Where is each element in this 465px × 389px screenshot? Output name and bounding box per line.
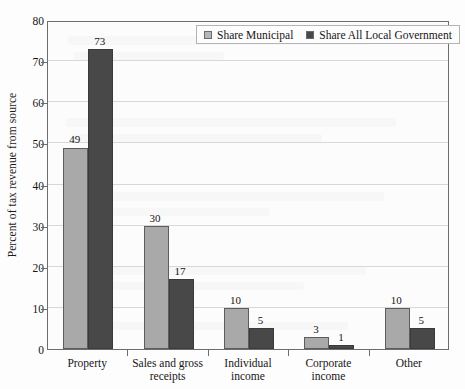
legend-label: Share All Local Government	[319, 29, 452, 41]
y-axis-title: Percent of tax revenue from source	[2, 0, 22, 350]
x-tick-mark	[288, 350, 289, 356]
legend-swatch-icon	[306, 31, 314, 39]
x-tick-mark	[208, 350, 209, 356]
plot-area	[47, 21, 449, 350]
bar-value-label: 10	[230, 294, 241, 306]
bar	[144, 226, 169, 349]
x-tick-mark	[369, 350, 370, 356]
y-tick-mark	[41, 144, 47, 145]
x-category-label: Sales and gross receipts	[132, 357, 203, 383]
y-tick-mark	[41, 103, 47, 104]
bar	[63, 148, 88, 350]
bar	[385, 308, 410, 349]
legend-entry: Share All Local Government	[306, 29, 452, 41]
bleed-smudge	[66, 118, 396, 127]
y-tick-label: 0	[18, 344, 44, 356]
bar-value-label: 5	[419, 314, 425, 326]
y-tick-mark	[41, 309, 47, 310]
bar-value-label: 17	[175, 265, 186, 277]
bar	[224, 308, 249, 349]
bar-value-label: 1	[338, 331, 344, 343]
bar	[88, 49, 113, 349]
x-category-label: Property	[67, 357, 107, 370]
y-tick-mark	[41, 268, 47, 269]
x-category-label: Corporate income	[305, 357, 351, 383]
y-tick-mark	[41, 186, 47, 187]
x-category-label: Individual income	[224, 357, 271, 383]
legend-entry: Share Municipal	[204, 29, 293, 41]
legend-swatch-icon	[204, 31, 212, 39]
bar-value-label: 73	[94, 35, 105, 47]
x-category-label: Other	[396, 357, 422, 370]
y-tick-label: 80	[18, 15, 44, 27]
bar	[304, 337, 329, 349]
y-axis-title-text: Percent of tax revenue from source	[6, 93, 18, 258]
bar-value-label: 30	[150, 212, 161, 224]
bar	[329, 345, 354, 349]
bar	[410, 328, 435, 349]
bar-value-label: 3	[313, 323, 319, 335]
bar-chart: Percent of tax revenue from source 01020…	[0, 0, 465, 389]
bar	[249, 328, 274, 349]
y-tick-mark	[41, 62, 47, 63]
bar	[169, 279, 194, 349]
bar-value-label: 49	[69, 133, 80, 145]
legend-label: Share Municipal	[217, 29, 293, 41]
y-tick-mark	[41, 227, 47, 228]
bar-value-label: 10	[391, 294, 402, 306]
x-tick-mark	[127, 350, 128, 356]
bar-value-label: 5	[258, 314, 264, 326]
chart-legend: Share MunicipalShare All Local Governmen…	[196, 25, 460, 44]
